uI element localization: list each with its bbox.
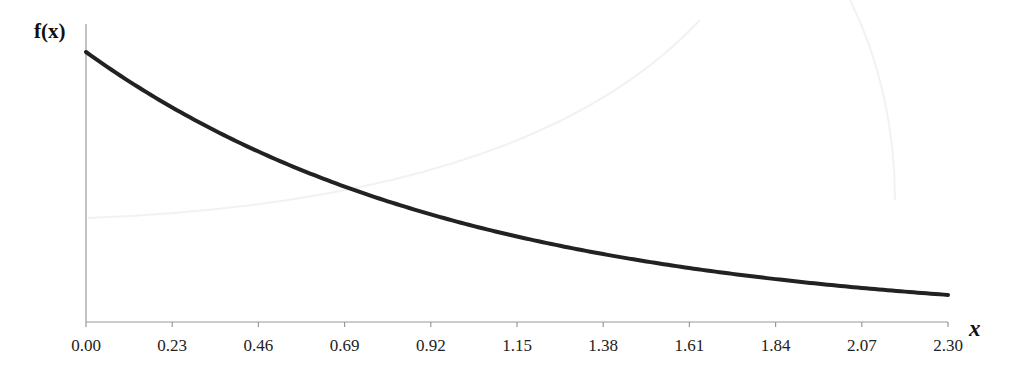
x-tick-label: 0.46	[244, 336, 274, 355]
x-tick-label: 1.84	[761, 336, 791, 355]
background-ghost-curve-2	[850, 0, 895, 200]
y-axis-label: f(x)	[34, 19, 65, 43]
chart: 0.000.230.460.690.921.151.381.611.842.07…	[0, 0, 1014, 378]
x-tick-label: 0.92	[416, 336, 446, 355]
x-axis-label: x	[968, 316, 981, 341]
x-tick-label: 0.00	[71, 336, 101, 355]
x-tick-label: 2.30	[933, 336, 963, 355]
background-ghost-curve	[88, 20, 700, 218]
x-tick-label: 1.38	[588, 336, 618, 355]
x-tick-label: 1.15	[502, 336, 532, 355]
x-ticks	[86, 322, 948, 327]
x-tick-label: 0.23	[157, 336, 187, 355]
x-tick-label: 1.61	[675, 336, 705, 355]
x-tick-label: 0.69	[330, 336, 360, 355]
x-tick-label: 2.07	[847, 336, 877, 355]
function-curve	[86, 52, 948, 295]
x-tick-labels: 0.000.230.460.690.921.151.381.611.842.07…	[71, 336, 963, 355]
